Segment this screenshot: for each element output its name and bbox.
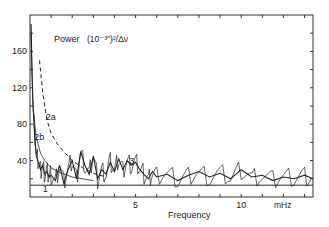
power-spectrum-chart: 510408012016012a2b3 Power (10⁻³″)²/Δν Fr…: [0, 0, 329, 227]
curve-label-2b: 2b: [34, 132, 44, 142]
chart-title-unit: (10⁻³″)²/Δν: [87, 34, 128, 44]
y-tick-label: 40: [17, 156, 27, 166]
x-tick-label: 10: [236, 200, 246, 210]
y-tick-label: 120: [12, 83, 27, 93]
y-tick-label: 80: [17, 119, 27, 129]
curve-label-2a: 2a: [46, 112, 56, 122]
y-tick-label: 160: [12, 46, 27, 56]
curve-label-1: 1: [43, 184, 48, 194]
x-axis-unit: mHz: [274, 200, 291, 210]
x-axis-label: Frequency: [168, 210, 211, 220]
curves: [30, 24, 313, 189]
series-spectrum: [31, 24, 313, 183]
curve-label-3: 3: [129, 156, 134, 166]
chart-title-word: Power: [54, 34, 80, 44]
x-tick-label: 5: [133, 200, 138, 210]
